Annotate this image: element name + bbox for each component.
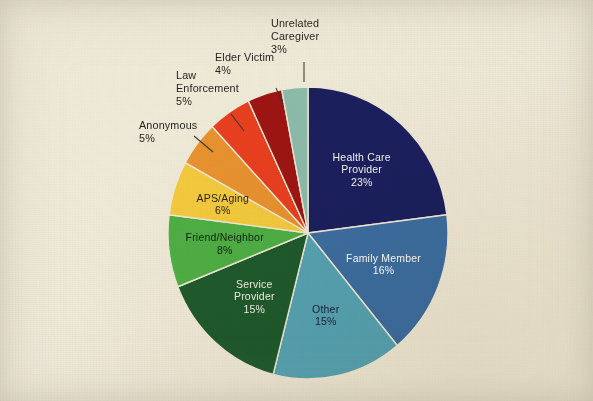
pie-chart: Health CareProvider23%Family Member16%Ot… — [0, 0, 593, 401]
chart-figure: Health CareProvider23%Family Member16%Ot… — [0, 0, 593, 401]
slice-label-elder-victim: Elder Victim4% — [215, 51, 274, 76]
slice-label-unrelated-caregiver: UnrelatedCaregiver3% — [271, 17, 319, 55]
slice-label-anonymous: Anonymous5% — [139, 119, 198, 144]
slice-label-other: Other15% — [312, 303, 340, 327]
